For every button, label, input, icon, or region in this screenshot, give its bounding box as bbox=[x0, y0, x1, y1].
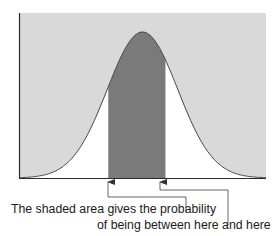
caption-line-1: The shaded area gives the probability bbox=[11, 203, 216, 215]
caption-line-2: of being between here and here bbox=[97, 219, 271, 231]
normal-distribution-diagram bbox=[0, 0, 277, 236]
